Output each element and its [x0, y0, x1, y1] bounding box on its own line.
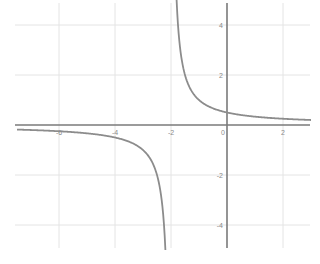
curve-right-branch [177, 0, 311, 120]
y-tick-label: 4 [219, 22, 223, 29]
curve-left-branch [17, 130, 165, 250]
y-tick-label: -4 [217, 222, 223, 229]
x-tick-label: -4 [112, 129, 118, 136]
x-tick-label: -6 [56, 129, 62, 136]
x-tick-label: 2 [281, 129, 285, 136]
y-tick-label: 2 [219, 72, 223, 79]
x-tick-label: -2 [168, 129, 174, 136]
x-tick-label: 0 [221, 129, 225, 136]
function-plot: -6-4-20242-2-4 [0, 0, 320, 264]
y-tick-label: -2 [217, 172, 223, 179]
